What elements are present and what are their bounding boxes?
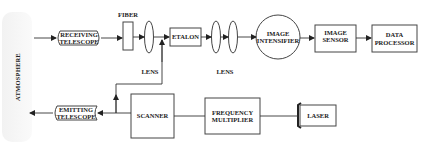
- data-processor-label: DATA PROCESSOR: [372, 25, 417, 52]
- image-sensor-label: IMAGE SENSOR: [315, 25, 356, 47]
- emitting-telescope-label: EMITTING TELESCOPE: [55, 106, 97, 120]
- lens-2-label: LENS: [213, 68, 237, 76]
- frequency-multiplier-line2: MULTIPLIER: [212, 116, 253, 124]
- receiving-telescope-line1: RECEIVING: [60, 31, 98, 39]
- emitting-telescope-line2: TELESCOPE: [56, 113, 95, 121]
- etalon-label: ETALON: [170, 28, 201, 46]
- fiber-label: FIBER: [112, 11, 144, 19]
- image-intensifier-label: IMAGE INTENSIFIER: [256, 28, 300, 46]
- fiber-shape: [123, 22, 133, 50]
- scanner-label: SCANNER: [131, 94, 174, 138]
- laser-label: LASER: [300, 105, 336, 126]
- frequency-multiplier-line1: FREQUENCY: [212, 109, 253, 117]
- emitting-telescope-line1: EMITTING: [59, 106, 93, 114]
- image-intensifier-line2: INTENSIFIER: [257, 37, 299, 45]
- lens-1-label: LENS: [138, 68, 162, 76]
- image-intensifier-line1: IMAGE: [267, 30, 290, 38]
- lens-2a-shape: [212, 21, 221, 53]
- data-processor-line2: PROCESSOR: [375, 39, 415, 47]
- image-sensor-line1: IMAGE: [324, 29, 347, 37]
- image-sensor-line2: SENSOR: [322, 36, 348, 44]
- receiving-telescope-line2: TELESCOPE: [59, 38, 98, 46]
- lens-2b-shape: [229, 21, 238, 53]
- receiving-telescope-label: RECEIVING TELESCOPE: [57, 31, 101, 45]
- lidar-system-diagram: ATMOSPHERE: [0, 0, 430, 146]
- frequency-multiplier-label: FREQUENCY MULTIPLIER: [205, 98, 260, 134]
- lens-1-shape: [145, 21, 154, 53]
- data-processor-line1: DATA: [386, 31, 403, 39]
